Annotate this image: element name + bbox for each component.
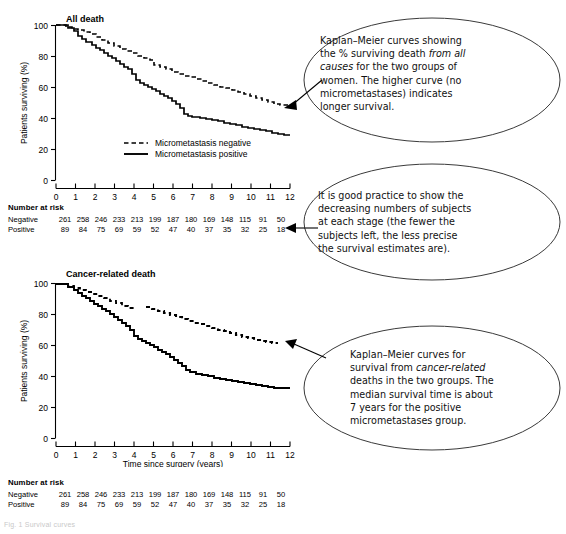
y-tick-marks [51,26,56,181]
svg-text:1: 1 [73,192,78,202]
chart-legend: Micrometastasis negative Micrometastasis… [124,138,251,159]
risk-cell: 52 [146,225,164,235]
risk-cell: 75 [92,500,110,510]
svg-text:3: 3 [112,450,117,460]
annotation-line: subjects left, the less precise [318,229,526,242]
risk-cell: 75 [92,225,110,235]
risk-row-label: Positive [8,225,56,235]
series-micrometastasis-negative [56,25,288,105]
annotation-line: the survival estimates are). [318,242,526,255]
y-tick-label-100: 100 [34,279,48,289]
svg-text:4: 4 [132,192,137,202]
annotation-line: causes for the two groups of [320,60,520,73]
y-axis-title: Patients surviving (%) [19,320,29,402]
risk-cell: 59 [128,225,146,235]
table-row: Positive 89 84 75 69 59 52 47 40 37 35 3… [8,225,290,235]
series-micrometastasis-positive [56,284,290,388]
svg-text:2: 2 [93,450,98,460]
annotation-text-number-at-risk: It is good practice to show the decreasi… [318,189,526,255]
svg-text:5: 5 [151,192,156,202]
table-row: Negative 261 258 246 233 213 199 187 180… [8,490,290,500]
svg-text:7: 7 [190,192,195,202]
risk-cell: 148 [218,490,236,500]
annotation-line: the % surviving death from all [320,47,520,60]
svg-text:10: 10 [246,192,256,202]
risk-cell: 115 [236,490,254,500]
risk-cell: 169 [200,215,218,225]
risk-table-all-death: Number at risk Negative 261 258 246 233 … [8,203,290,235]
table-row: Positive 89 84 75 69 59 52 47 40 37 35 3… [8,500,290,510]
risk-table-header: Number at risk [8,478,290,488]
annotation-arrow-2-head [285,223,296,233]
risk-cell: 233 [110,490,128,500]
risk-cell: 180 [182,490,200,500]
svg-text:0: 0 [54,450,59,460]
risk-cell: 25 [254,500,272,510]
y-tick-label-60: 60 [39,83,49,93]
risk-cell: 91 [254,215,272,225]
y-tick-label-0: 0 [43,176,48,186]
chart-all-death: 100 80 60 40 20 0 0 1 2 3 4 [0,4,320,204]
svg-text:9: 9 [229,192,234,202]
y-tick-label-60: 60 [39,341,49,351]
x-tick-labels: 0 1 2 3 4 5 6 7 8 9 10 11 12 [54,192,295,202]
risk-cell: 35 [218,500,236,510]
svg-text:11: 11 [266,192,275,202]
svg-text:1: 1 [73,450,78,460]
risk-table-header: Number at risk [8,203,290,213]
y-axis-title: Patients surviving (%) [19,62,29,144]
annotation-line: 7 years for the positive [350,401,546,414]
risk-cell: 233 [110,215,128,225]
annotation-line: at each stage (the fewer the [318,215,526,228]
legend-label-positive: Micrometastasis positive [155,149,248,159]
risk-cell: 37 [200,225,218,235]
series-micrometastasis-negative-segment2 [146,307,278,343]
risk-cell: 89 [56,225,74,235]
x-tick-marks [56,184,290,189]
risk-cell: 199 [146,215,164,225]
legend-label-negative: Micrometastasis negative [155,138,251,148]
annotation-text-cancer-death: Kaplan–Meier curves for survival from ca… [350,348,546,427]
risk-cell: 47 [164,225,182,235]
risk-cell: 261 [56,490,74,500]
y-tick-marks [51,284,56,439]
risk-cell: 52 [146,500,164,510]
annotation-line: micrometastases group. [350,414,546,427]
risk-cell: 187 [164,215,182,225]
risk-cell: 40 [182,500,200,510]
svg-text:11: 11 [266,450,275,460]
risk-cell: 37 [200,500,218,510]
svg-text:9: 9 [229,450,234,460]
risk-cell: 25 [254,225,272,235]
risk-row-label: Negative [8,490,56,500]
risk-cell: 199 [146,490,164,500]
risk-table-cancer-death: Number at risk Negative 261 258 246 233 … [8,478,290,510]
y-tick-label-100: 100 [34,21,48,31]
risk-cell: 169 [200,490,218,500]
risk-cell: 180 [182,215,200,225]
svg-text:10: 10 [246,450,256,460]
svg-text:3: 3 [112,192,117,202]
panel-title: All death [66,14,104,24]
risk-cell: 35 [218,225,236,235]
annotation-line: Kaplan–Meier curves for [350,348,546,361]
y-tick-label-40: 40 [39,114,49,124]
risk-cell: 84 [74,500,92,510]
chart-cancer-related-death: 100 80 60 40 20 0 0 1 2 3 4 5 [0,262,320,467]
annotation-line: decreasing numbers of subjects [318,202,526,215]
y-tick-label-20: 20 [39,403,49,413]
risk-cell: 91 [254,490,272,500]
figure-root: 100 80 60 40 20 0 0 1 2 3 4 [0,0,566,534]
risk-cell: 213 [128,490,146,500]
risk-cell: 258 [74,215,92,225]
risk-cell: 40 [182,225,200,235]
annotation-text-number-at-risk-wrap: It is good practice to show the decreasi… [318,189,526,255]
annotation-text-all-death: Kaplan–Meier curves showing the % surviv… [320,34,520,113]
risk-cell: 69 [110,500,128,510]
y-tick-label-0: 0 [43,434,48,444]
risk-cell: 89 [56,500,74,510]
risk-cell: 246 [92,490,110,500]
risk-cell: 32 [236,500,254,510]
risk-cell: 47 [164,500,182,510]
svg-text:2: 2 [93,192,98,202]
